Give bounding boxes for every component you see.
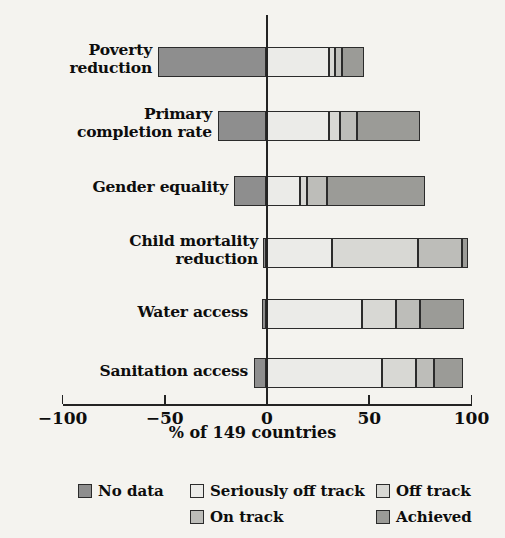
x-axis-line — [63, 404, 472, 406]
legend-item-on-track[interactable]: On track — [190, 508, 376, 526]
x-axis: −100−50050100 — [0, 0, 505, 538]
legend-label-seriously-off-track: Seriously off track — [210, 482, 365, 500]
x-axis-tick — [368, 395, 370, 404]
legend-row-1: No data Seriously off track Off track — [78, 478, 468, 504]
legend-item-off-track[interactable]: Off track — [376, 482, 468, 500]
legend-swatch-seriously-off-track — [190, 484, 204, 498]
legend: No data Seriously off track Off track On… — [78, 478, 468, 530]
legend-item-no-data[interactable]: No data — [78, 482, 190, 500]
chart-figure: Poverty reduction Primary completion rat… — [0, 0, 505, 538]
legend-item-seriously-off-track[interactable]: Seriously off track — [190, 482, 376, 500]
legend-swatch-off-track — [376, 484, 390, 498]
x-axis-tick — [471, 395, 473, 404]
x-axis-title: % of 149 countries — [0, 423, 505, 442]
legend-label-no-data: No data — [98, 482, 164, 500]
x-axis-tick — [62, 395, 64, 404]
legend-label-on-track: On track — [210, 508, 283, 526]
legend-label-off-track: Off track — [396, 482, 471, 500]
legend-swatch-no-data — [78, 484, 92, 498]
legend-swatch-on-track — [190, 510, 204, 524]
legend-row-2: On track Achieved — [78, 504, 468, 530]
legend-label-achieved: Achieved — [396, 508, 472, 526]
legend-item-achieved[interactable]: Achieved — [376, 508, 468, 526]
legend-swatch-achieved — [376, 510, 390, 524]
x-axis-tick — [164, 395, 166, 404]
x-axis-tick — [266, 395, 268, 404]
